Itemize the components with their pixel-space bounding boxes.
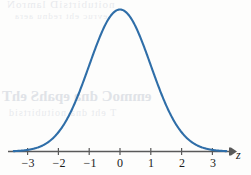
x-tick-label: −1 xyxy=(78,156,102,170)
x-tick-label: 3 xyxy=(201,156,225,170)
x-axis-variable-label: z xyxy=(236,148,241,162)
x-axis-group xyxy=(8,148,237,156)
x-tick-label: 2 xyxy=(170,156,194,170)
normal-distribution-figure: noitubirtsiD lamroN evruc eht rednu aera… xyxy=(0,0,251,175)
normal-density-curve xyxy=(14,9,227,151)
x-tick-label: 1 xyxy=(139,156,163,170)
x-tick-label: −2 xyxy=(47,156,71,170)
plot-canvas xyxy=(0,0,251,175)
x-tick-label: −3 xyxy=(16,156,40,170)
x-tick-label: 0 xyxy=(108,156,132,170)
